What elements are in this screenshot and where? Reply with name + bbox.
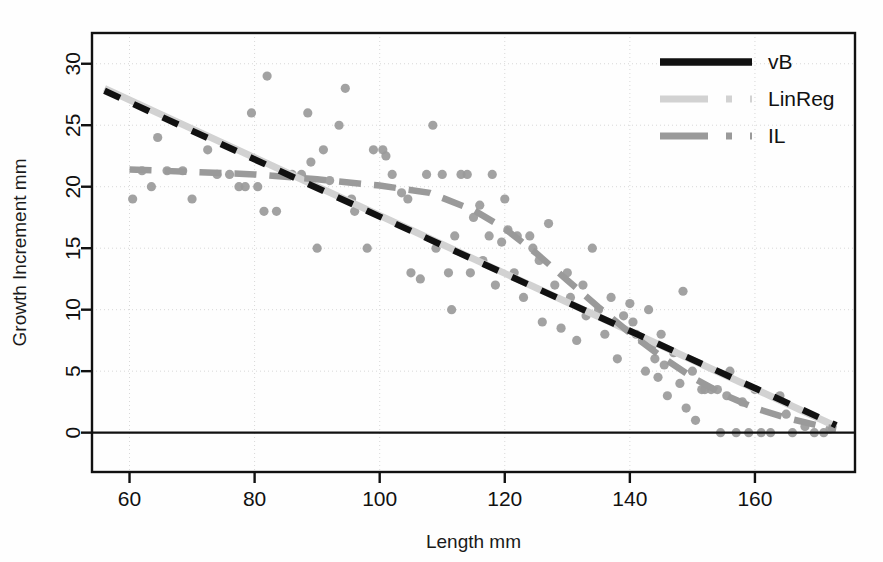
scatter-point: [682, 403, 691, 412]
scatter-point: [463, 170, 472, 179]
scatter-point: [438, 170, 447, 179]
scatter-point: [606, 293, 615, 302]
x-tick-label: 120: [487, 487, 522, 510]
scatter-point: [619, 311, 628, 320]
scatter-point: [556, 324, 565, 333]
scatter-point: [675, 379, 684, 388]
scatter-point: [369, 145, 378, 154]
y-tick-label: 30: [61, 52, 84, 75]
scatter-point: [572, 336, 581, 345]
scatter-point: [678, 287, 687, 296]
scatter-point: [519, 293, 528, 302]
y-tick-label: 0: [61, 427, 84, 439]
scatter-point: [653, 373, 662, 382]
scatter-point: [388, 170, 397, 179]
y-tick-label: 15: [61, 237, 84, 260]
scatter-point: [334, 121, 343, 130]
legend-label-il: IL: [768, 124, 786, 147]
scatter-point: [428, 121, 437, 130]
x-tick-label: 140: [612, 487, 647, 510]
scatter-point: [272, 207, 281, 216]
y-tick-label: 5: [61, 365, 84, 377]
scatter-point: [450, 231, 459, 240]
scatter-point: [313, 244, 322, 253]
scatter-point: [187, 194, 196, 203]
scatter-point: [688, 367, 697, 376]
scatter-point: [657, 330, 666, 339]
scatter-point: [525, 231, 534, 240]
legend-label-linreg: LinReg: [768, 87, 835, 110]
scatter-point: [147, 182, 156, 191]
scatter-point: [485, 231, 494, 240]
scatter-point: [578, 280, 587, 289]
x-tick-label: 80: [243, 487, 266, 510]
scatter-point: [628, 317, 637, 326]
y-tick-label: 10: [61, 298, 84, 321]
scatter-point: [625, 299, 634, 308]
scatter-point: [444, 268, 453, 277]
x-tick-label: 160: [737, 487, 772, 510]
scatter-point: [491, 280, 500, 289]
scatter-point: [403, 194, 412, 203]
y-axis-title: Growth Increment mm: [9, 159, 30, 347]
scatter-point: [447, 305, 456, 314]
scatter-point: [363, 244, 372, 253]
scatter-point: [466, 268, 475, 277]
scatter-point: [153, 133, 162, 142]
scatter-point: [241, 182, 250, 191]
scatter-point: [303, 108, 312, 117]
scatter-point: [253, 182, 262, 191]
scatter-point: [128, 194, 137, 203]
scatter-point: [225, 170, 234, 179]
scatter-point: [488, 170, 497, 179]
scatter-point: [422, 170, 431, 179]
scatter-point: [588, 244, 597, 253]
scatter-point: [691, 416, 700, 425]
scatter-point: [203, 145, 212, 154]
scatter-point: [663, 391, 672, 400]
scatter-point: [644, 305, 653, 314]
scatter-point: [600, 330, 609, 339]
scatter-point: [306, 158, 315, 167]
scatter-point: [381, 151, 390, 160]
scatter-point: [613, 354, 622, 363]
scatter-point: [641, 367, 650, 376]
scatter-point: [263, 71, 272, 80]
scatter-point: [259, 207, 268, 216]
data-points: [128, 71, 835, 437]
scatter-point: [550, 280, 559, 289]
plot-frame: [92, 33, 855, 472]
scatter-point: [319, 145, 328, 154]
scatter-point: [500, 194, 509, 203]
y-tick-label: 20: [61, 175, 84, 198]
scatter-point: [538, 317, 547, 326]
scatter-plot-svg: 6080100120140160051015202530 vBLinRegIL …: [0, 0, 883, 562]
scatter-point: [406, 268, 415, 277]
x-tick-label: 100: [362, 487, 397, 510]
x-tick-label: 60: [118, 487, 141, 510]
scatter-point: [497, 237, 506, 246]
y-tick-label: 25: [61, 114, 84, 137]
scatter-point: [544, 219, 553, 228]
scatter-point: [247, 108, 256, 117]
legend: vBLinRegIL: [660, 50, 835, 147]
grid-lines: [92, 33, 855, 472]
scatter-point: [341, 84, 350, 93]
legend-label-vb: vB: [768, 50, 793, 73]
x-axis-title: Length mm: [426, 531, 521, 552]
chart-figure: 6080100120140160051015202530 vBLinRegIL …: [0, 0, 883, 562]
scatter-point: [416, 274, 425, 283]
scatter-point: [782, 410, 791, 419]
